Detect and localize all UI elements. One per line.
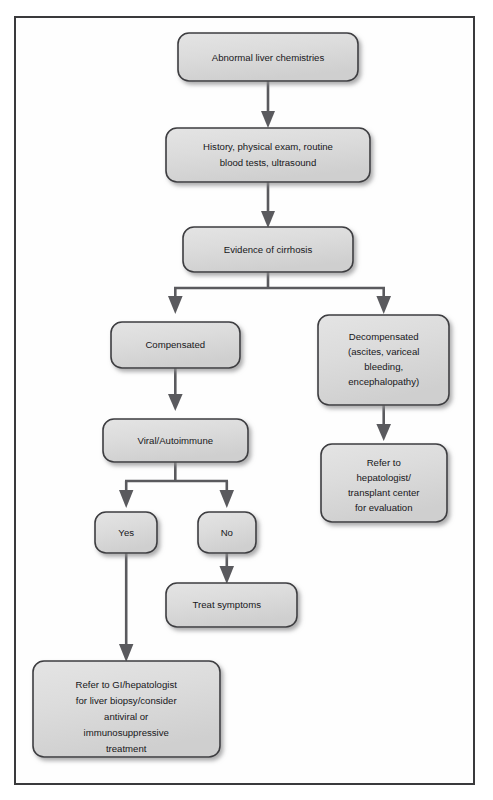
- node-abnormal-liver-chemistries[interactable]: Abnormal liver chemistries: [178, 33, 358, 81]
- node-treat-symptoms[interactable]: Treat symptoms: [166, 583, 297, 627]
- node-label: bleeding,: [364, 361, 403, 372]
- node-viral-autoimmune[interactable]: Viral/Autoimmune: [103, 419, 248, 462]
- node-label: transplant center: [348, 487, 420, 498]
- node-label: History, physical exam, routine: [203, 141, 333, 152]
- node-label: Yes: [118, 527, 134, 538]
- node-decompensated[interactable]: Decompensated (ascites, variceal bleedin…: [318, 315, 449, 405]
- node-label: Compensated: [145, 339, 205, 350]
- node-label: for evaluation: [355, 502, 413, 513]
- node-label: for liver biopsy/consider: [76, 695, 178, 706]
- node-label: Refer to: [367, 457, 401, 468]
- node-no[interactable]: No: [198, 512, 256, 553]
- node-label: Refer to GI/hepatologist: [76, 679, 178, 690]
- flowchart-page: Abnormal liver chemistries History, phys…: [0, 0, 493, 800]
- node-label: Decompensated: [349, 331, 419, 342]
- edge-decompensated-to-refer: [376, 405, 391, 441]
- edge-yes-to-refer-gi: [119, 553, 133, 662]
- node-label: blood tests, ultrasound: [220, 157, 317, 168]
- edge-viral-split: [119, 462, 234, 508]
- node-evidence-of-cirrhosis[interactable]: Evidence of cirrhosis: [183, 227, 353, 272]
- node-history-physical-exam[interactable]: History, physical exam, routine blood te…: [166, 128, 370, 182]
- node-label: (ascites, variceal: [348, 346, 419, 357]
- edge-history-to-evidence: [261, 182, 275, 228]
- node-label: antiviral or: [104, 711, 149, 722]
- node-refer-gi-hepatologist[interactable]: Refer to GI/hepatologist for liver biops…: [33, 661, 220, 757]
- node-label: hepatologist/: [356, 472, 411, 483]
- node-label: Abnormal liver chemistries: [212, 52, 325, 63]
- flowchart-svg: Abnormal liver chemistries History, phys…: [0, 0, 493, 800]
- edge-no-to-treat: [220, 553, 235, 584]
- edge-compensated-to-viral: [168, 368, 183, 411]
- node-label: No: [221, 527, 233, 538]
- node-label: Treat symptoms: [193, 599, 262, 610]
- node-label: Viral/Autoimmune: [138, 435, 214, 446]
- edge-abnormal-to-history: [261, 81, 275, 128]
- node-label: Evidence of cirrhosis: [224, 244, 313, 255]
- node-label: immunosuppressive: [84, 727, 169, 738]
- node-label: encephalopathy): [348, 376, 419, 387]
- edge-evidence-split: [168, 272, 391, 314]
- node-label: treatment: [106, 743, 147, 754]
- node-yes[interactable]: Yes: [95, 512, 157, 553]
- node-compensated[interactable]: Compensated: [111, 322, 240, 368]
- node-refer-hepatologist-transplant[interactable]: Refer to hepatologist/ transplant center…: [321, 444, 447, 522]
